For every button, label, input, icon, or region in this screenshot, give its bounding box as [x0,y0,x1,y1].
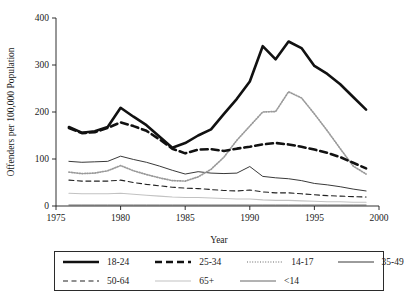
legend-item-50-64[interactable]: 50-64 [61,271,131,290]
series-line-65 [69,193,366,202]
series-line-35-49 [69,156,366,191]
legend-label: 18-24 [101,257,131,267]
series-line-25-34 [69,122,366,168]
x-axis-ticks: 197519801985199019952000 [47,206,389,223]
y-tick-label: 300 [35,60,50,70]
series-lines [69,42,366,206]
series-line-50-64 [69,180,366,197]
x-axis-title: Year [210,235,228,245]
y-tick-label: 400 [35,13,50,23]
legend-label: 50-64 [101,276,131,286]
legend-item-14-17[interactable]: 14-17 [245,252,315,271]
legend-swatch-35-49 [336,256,376,268]
y-axis-title: Offenders per 100,000 Population [6,47,16,176]
x-tick-label: 1985 [176,213,195,223]
x-axis-group: 197519801985199019952000 [47,206,389,223]
series-line-18-24 [69,42,366,148]
x-tick-label: 1990 [240,213,259,223]
legend-row: 18-2425-3414-1735-49 [55,252,383,271]
legend-swatch-65 [153,275,193,287]
legend-label: 14-17 [285,257,315,267]
line-chart-plot: 0100200300400 197519801985199019952000 Y… [0,0,400,250]
legend-swatch-25-34 [153,256,193,268]
y-axis-group: 0100200300400 [35,13,56,211]
legend-item-35-49[interactable]: 35-49 [336,252,406,271]
x-tick-label: 1980 [111,213,130,223]
y-tick-label: 100 [35,154,50,164]
legend-rows: 18-2425-3414-1735-4950-6465+<14 [55,252,383,290]
x-tick-label: 2000 [370,213,389,223]
legend-item-65[interactable]: 65+ [153,271,216,290]
legend-swatch-18-24 [61,256,101,268]
x-tick-label: 1975 [47,213,66,223]
legend-label: 65+ [193,276,216,286]
legend-item-14[interactable]: <14 [238,271,301,290]
legend-item-25-34[interactable]: 25-34 [153,252,223,271]
legend-swatch-14 [238,275,278,287]
y-axis-ticks: 0100200300400 [35,13,56,211]
legend-label: <14 [278,276,301,286]
legend-swatch-14-17 [245,256,285,268]
legend-row: 50-6465+<14 [55,271,383,290]
legend-label: 25-34 [193,257,223,267]
y-tick-label: 200 [35,107,50,117]
legend-swatch-50-64 [61,275,101,287]
chart-legend: 18-2425-3414-1735-4950-6465+<14 [54,251,384,291]
x-tick-label: 1995 [305,213,324,223]
y-tick-label: 0 [44,201,49,211]
legend-item-18-24[interactable]: 18-24 [61,252,131,271]
series-line-14-17 [69,92,366,181]
legend-label: 35-49 [376,257,406,267]
